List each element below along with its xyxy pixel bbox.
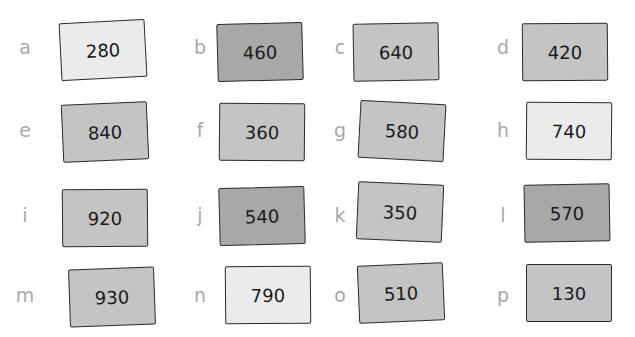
card-n: n 790 [185, 255, 335, 335]
value-box: 790 [225, 266, 312, 325]
value-box: 510 [357, 262, 445, 324]
card-value: 570 [550, 202, 585, 224]
value-box: 130 [526, 264, 612, 322]
value-box: 920 [62, 189, 149, 248]
value-box: 420 [522, 23, 609, 82]
card-value: 580 [384, 120, 419, 143]
card-m: m 930 [10, 255, 160, 335]
value-box: 640 [353, 22, 440, 81]
card-value: 840 [87, 121, 122, 143]
card-value: 420 [548, 41, 583, 62]
card-value: 350 [382, 201, 417, 223]
value-box: 740 [526, 102, 613, 161]
card-o: o 510 [325, 255, 475, 335]
card-letter: c [325, 7, 355, 87]
card-k: k 350 [325, 175, 475, 255]
card-letter: b [185, 7, 215, 87]
card-value: 280 [85, 39, 120, 62]
card-value: 790 [251, 284, 286, 305]
card-p: p 130 [488, 255, 635, 335]
card-letter: o [325, 255, 355, 335]
card-letter: i [10, 175, 40, 255]
value-box: 350 [356, 181, 444, 243]
card-value: 640 [379, 41, 414, 63]
value-box: 570 [524, 183, 611, 242]
card-letter: p [488, 255, 518, 335]
card-value: 360 [245, 121, 280, 142]
value-box: 460 [216, 22, 303, 82]
value-box: 930 [68, 267, 156, 328]
card-letter: d [488, 7, 518, 87]
card-letter: l [488, 175, 518, 255]
card-letter: e [10, 90, 40, 170]
card-letter: j [185, 175, 215, 255]
card-value: 510 [383, 282, 418, 304]
card-c: c 640 [325, 7, 475, 87]
value-box: 540 [218, 186, 305, 246]
card-e: e 840 [10, 90, 160, 170]
card-value: 740 [552, 120, 587, 141]
card-d: d 420 [488, 7, 635, 87]
card-j: j 540 [185, 175, 335, 255]
card-value: 460 [243, 41, 278, 63]
card-letter: g [325, 90, 355, 170]
value-box: 280 [59, 19, 148, 81]
card-value: 930 [94, 286, 129, 308]
card-letter: k [325, 175, 355, 255]
card-letter: a [10, 7, 40, 87]
card-letter: m [10, 255, 40, 335]
card-letter: h [488, 90, 518, 170]
card-value: 920 [88, 207, 123, 228]
card-value: 540 [245, 205, 280, 227]
card-b: b 460 [185, 7, 335, 87]
card-value: 130 [552, 283, 586, 304]
card-i: i 920 [10, 175, 160, 255]
value-box: 580 [358, 100, 447, 162]
card-a: a 280 [10, 7, 160, 87]
value-box: 840 [61, 101, 149, 163]
card-l: l 570 [488, 175, 635, 255]
card-letter: f [185, 90, 215, 170]
card-grid: a 280 b 460 c 640 d 420 e 840 f 360 [0, 0, 635, 337]
value-box: 360 [219, 103, 306, 162]
card-letter: n [185, 255, 215, 335]
card-h: h 740 [488, 90, 635, 170]
card-g: g 580 [325, 90, 475, 170]
card-f: f 360 [185, 90, 335, 170]
